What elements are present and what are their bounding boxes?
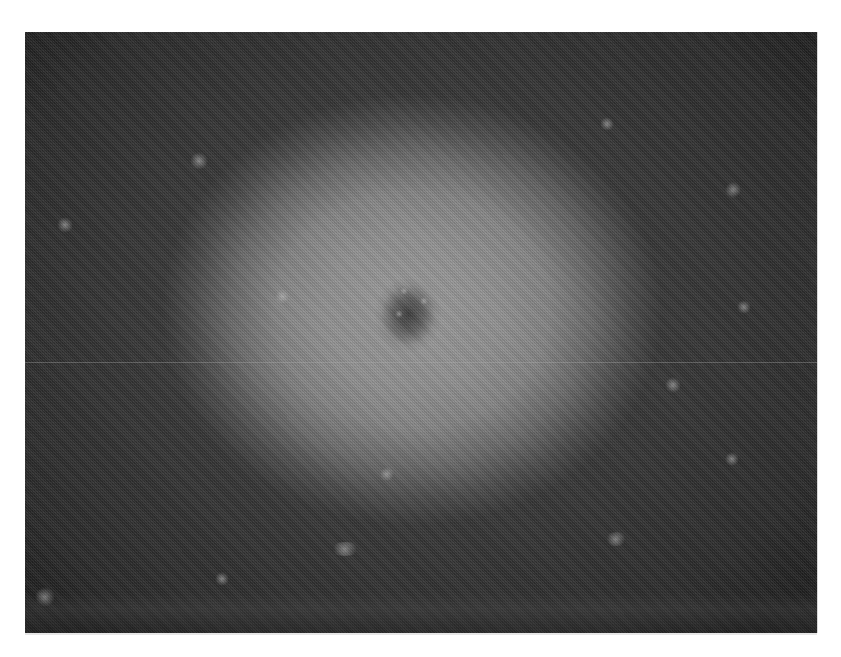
bottom-band bbox=[25, 593, 817, 633]
retinal-image bbox=[25, 32, 817, 633]
right-edge-line bbox=[817, 32, 818, 633]
bottom-edge-shadow bbox=[25, 633, 817, 635]
scan-line bbox=[25, 362, 817, 363]
grain-texture bbox=[25, 32, 817, 633]
